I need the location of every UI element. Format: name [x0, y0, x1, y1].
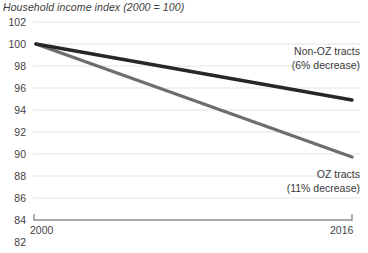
x-axis-line	[34, 214, 352, 220]
series-label-oz-tracts: OZ tracts (11% decrease)	[287, 168, 360, 195]
x-tick-2000: 2000	[30, 224, 53, 236]
series-label-oz-name: OZ tracts	[287, 168, 360, 182]
household-income-index-chart: Household income index (2000 = 100) 102 …	[0, 0, 368, 253]
series-label-oz-note: (11% decrease)	[287, 182, 360, 196]
chart-canvas	[0, 0, 368, 253]
series-label-non-oz-tracts: Non-OZ tracts (6% decrease)	[292, 45, 360, 72]
x-tick-2016: 2016	[330, 224, 353, 236]
series-label-non-oz-name: Non-OZ tracts	[292, 45, 360, 59]
series-label-non-oz-note: (6% decrease)	[292, 59, 360, 73]
